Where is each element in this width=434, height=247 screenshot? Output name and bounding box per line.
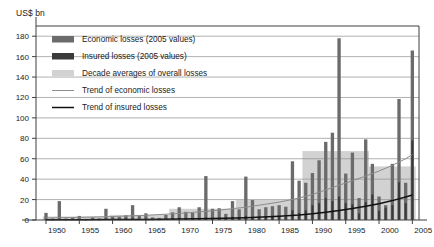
svg-text:Insured losses (2005 values): Insured losses (2005 values) (82, 52, 187, 61)
loss-chart: US$ bn 020406080100120140160180 19501955… (0, 0, 434, 247)
svg-text:Trend of insured losses: Trend of insured losses (82, 103, 167, 112)
svg-text:100: 100 (16, 114, 30, 123)
svg-text:Decade averages of overall los: Decade averages of overall losses (82, 69, 207, 78)
svg-text:1965: 1965 (148, 226, 166, 235)
svg-text:1980: 1980 (248, 226, 266, 235)
svg-text:2005: 2005 (414, 226, 432, 235)
svg-text:1975: 1975 (215, 226, 233, 235)
svg-text:0: 0 (25, 216, 30, 225)
chart-legend: Economic losses (2005 values)Insured los… (52, 35, 207, 112)
svg-text:140: 140 (16, 73, 30, 82)
svg-text:Economic losses (2005 values): Economic losses (2005 values) (82, 35, 196, 44)
svg-text:40: 40 (20, 175, 29, 184)
svg-text:80: 80 (20, 134, 29, 143)
svg-text:Trend of economic losses: Trend of economic losses (82, 86, 175, 95)
svg-text:20: 20 (20, 196, 29, 205)
chart-plot-area: 020406080100120140160180 195019551960196… (0, 0, 434, 247)
svg-text:1950: 1950 (48, 226, 66, 235)
svg-text:120: 120 (16, 93, 30, 102)
svg-text:160: 160 (16, 53, 30, 62)
x-axis-ticks: 1950195519601965197019751980198519901995… (46, 220, 433, 235)
svg-text:1960: 1960 (115, 226, 133, 235)
svg-text:1985: 1985 (281, 226, 299, 235)
svg-text:1970: 1970 (181, 226, 199, 235)
svg-text:1995: 1995 (348, 226, 366, 235)
svg-text:60: 60 (20, 155, 29, 164)
svg-text:2000: 2000 (381, 226, 399, 235)
svg-text:1990: 1990 (314, 226, 332, 235)
svg-text:180: 180 (16, 32, 30, 41)
svg-text:1955: 1955 (81, 226, 99, 235)
y-axis-ticks: 020406080100120140160180 (16, 32, 36, 225)
